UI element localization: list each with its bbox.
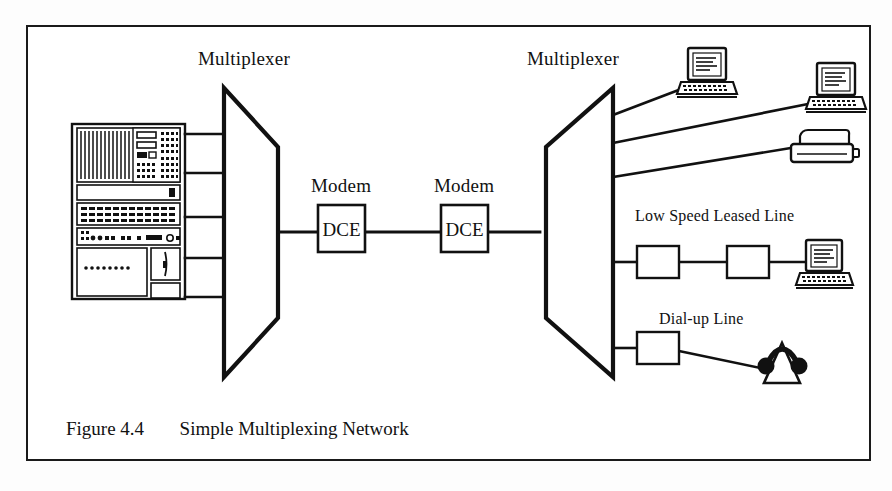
- dialup-modem[interactable]: [637, 332, 679, 364]
- label-multiplexer-left: Multiplexer: [198, 48, 290, 70]
- acoustic-coupler[interactable]: [758, 343, 808, 383]
- caption-title: Simple Multiplexing Network: [180, 418, 409, 439]
- modem-left-dce-box[interactable]: DCE: [318, 205, 365, 252]
- multiplexer-right[interactable]: [546, 88, 613, 377]
- coupler-cup-right: [791, 358, 808, 375]
- dce-left-text: DCE: [323, 219, 361, 240]
- label-dial-up-line: Dial-up Line: [659, 310, 744, 328]
- dce-right-text: DCE: [446, 219, 484, 240]
- printer[interactable]: [791, 130, 859, 162]
- caption-number: Figure 4.4: [66, 418, 144, 439]
- leased-modem-far[interactable]: [727, 246, 769, 278]
- leased-modem-near[interactable]: [637, 246, 679, 278]
- terminal-top[interactable]: [677, 48, 737, 97]
- figure-root: DCE DCE: [0, 0, 892, 491]
- modem-right-dce-box[interactable]: DCE: [441, 205, 488, 252]
- leased-line-group: [637, 246, 805, 278]
- label-modem-left: Modem: [311, 175, 371, 197]
- terminal-leased[interactable]: [796, 240, 853, 288]
- label-multiplexer-right: Multiplexer: [527, 48, 619, 70]
- multiplexer-left[interactable]: [224, 88, 278, 377]
- figure-caption: Figure 4.4 Simple Multiplexing Network: [66, 418, 409, 440]
- dialup-line-group: [637, 332, 775, 371]
- mainframe-to-mux-links: [185, 134, 224, 297]
- terminal-second[interactable]: [806, 63, 866, 112]
- host-mainframe: [72, 124, 185, 299]
- coupler-cup-left: [758, 358, 775, 375]
- label-low-speed-leased-line: Low Speed Leased Line: [635, 207, 794, 225]
- label-modem-right: Modem: [434, 175, 494, 197]
